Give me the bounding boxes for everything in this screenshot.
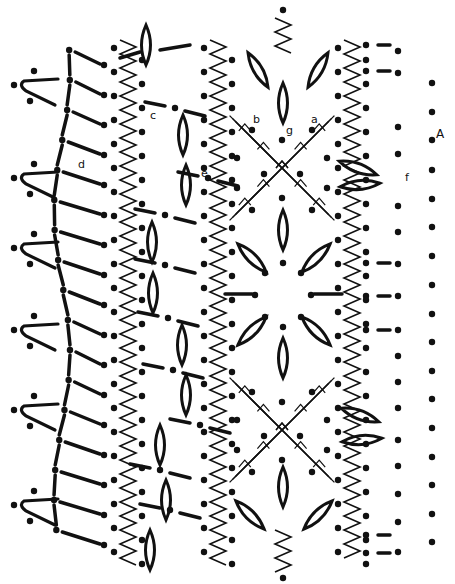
stitch-dot: [363, 393, 369, 399]
chain-dash: [63, 295, 68, 315]
stitch-dot: [429, 396, 435, 402]
stitch-dot: [335, 309, 341, 315]
stitch-dot: [229, 105, 235, 111]
stitch-dot: [429, 454, 435, 460]
petal-cluster-icon: [299, 314, 334, 349]
stitch-dot: [111, 285, 117, 291]
stitch-dot: [31, 68, 37, 74]
stitch-dot: [111, 357, 117, 363]
stitch-dot: [429, 368, 435, 374]
chain-dash: [69, 355, 70, 375]
chart-label-a: a: [311, 114, 318, 125]
chain-dash: [59, 415, 64, 435]
stitch-dot: [395, 463, 401, 469]
chain-dash: [62, 532, 100, 544]
petal-cluster-icon: [162, 480, 171, 520]
stitch-dot: [309, 127, 315, 133]
stitch-dot: [363, 260, 369, 266]
stitch-dot: [335, 381, 341, 387]
petal-cluster-icon: [179, 115, 188, 155]
stitch-dot: [335, 549, 341, 555]
chain-dash: [75, 52, 100, 64]
stitch-dot: [101, 242, 107, 248]
stitch-dot: [165, 315, 171, 321]
stitch-dot: [139, 513, 145, 519]
chain-dash: [54, 175, 57, 195]
petal-cluster-icon: [142, 25, 151, 65]
stitch-dot: [27, 423, 33, 429]
stitch-dot: [395, 405, 401, 411]
stitch-dot: [234, 155, 240, 161]
stitch-dot: [297, 171, 303, 177]
stitch-dot: [101, 212, 107, 218]
stitch-dot: [139, 417, 145, 423]
stitch-dot: [65, 377, 71, 383]
stitch-dot: [139, 297, 145, 303]
stitch-dot: [261, 433, 267, 439]
stitch-dot: [229, 81, 235, 87]
stitch-dot: [52, 467, 58, 473]
stitch-dot: [229, 369, 235, 375]
stitch-dot: [249, 469, 255, 475]
stitch-dot: [201, 141, 207, 147]
stitch-dot: [101, 92, 107, 98]
stitch-dot: [429, 339, 435, 345]
stitch-dot: [395, 261, 401, 267]
stitch-dot: [309, 469, 315, 475]
stitch-dot: [27, 191, 33, 197]
petal-cluster-icon: [244, 50, 272, 89]
stitch-dot: [229, 57, 235, 63]
stitch-dot: [229, 225, 235, 231]
petal-cluster-icon: [178, 325, 187, 365]
stitch-dot: [31, 313, 37, 319]
stitch-dot: [139, 201, 145, 207]
stitch-dot: [395, 229, 401, 235]
chain-dash: [64, 262, 100, 274]
stitch-dot: [111, 117, 117, 123]
stitch-dot: [335, 69, 341, 75]
stitch-dot: [51, 227, 57, 233]
stitch-dot: [335, 261, 341, 267]
chain-zigzag: [120, 40, 136, 565]
petal-cluster-icon: [279, 210, 288, 250]
stitch-dot: [139, 489, 145, 495]
chain-dash: [145, 102, 165, 106]
stitch-dot: [11, 407, 17, 413]
stitch-dot: [363, 153, 369, 159]
chain-dash: [69, 292, 100, 304]
stitch-dot: [101, 542, 107, 548]
chain-dash: [160, 45, 190, 50]
petal-cluster-icon: [340, 404, 381, 426]
stitch-dot: [229, 129, 235, 135]
stitch-dot: [249, 207, 255, 213]
stitch-dot: [335, 141, 341, 147]
chain-dash: [69, 55, 70, 75]
chain-dash: [55, 445, 59, 465]
stitch-dot: [335, 453, 341, 459]
stitch-dot: [111, 141, 117, 147]
chain-dash: [68, 325, 70, 345]
chain-dash: [68, 142, 100, 154]
stitch-dot: [363, 297, 369, 303]
stitch-dot: [111, 45, 117, 51]
stitch-dot: [395, 70, 401, 76]
cross-stitch-line: [235, 121, 334, 220]
stitch-dot: [139, 81, 145, 87]
stitch-dot: [429, 425, 435, 431]
stitch-dot: [335, 165, 341, 171]
stitch-dot: [139, 105, 145, 111]
stitch-dot: [101, 332, 107, 338]
stitch-dot: [197, 422, 203, 428]
stitch-dot: [308, 292, 314, 298]
stitch-dot: [229, 537, 235, 543]
stitch-dot: [261, 171, 267, 177]
chain-dash: [65, 442, 100, 454]
chart-label-e: e: [201, 168, 208, 179]
stitch-dot: [279, 457, 285, 463]
stitch-dot: [429, 80, 435, 86]
stitch-dot: [363, 105, 369, 111]
stitch-dot: [101, 272, 107, 278]
stitch-dot: [363, 561, 369, 567]
stitch-dot: [157, 467, 163, 473]
stitch-dot: [279, 399, 285, 405]
